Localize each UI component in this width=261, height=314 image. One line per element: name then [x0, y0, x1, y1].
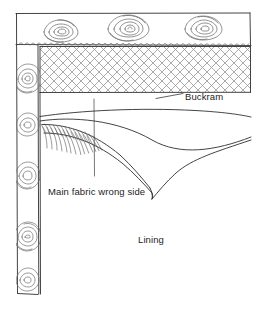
buckram-band	[40, 47, 251, 93]
label-buckram: Buckram	[185, 91, 223, 102]
curtain-heading-diagram	[0, 0, 261, 314]
lining-area	[40, 93, 41, 295]
floral-border-left	[14, 45, 41, 294]
gathered-pleats	[41, 124, 107, 163]
buckram-leader-line	[156, 94, 183, 99]
stitch-line	[16, 43, 251, 46]
illustration-canvas: Buckram Main fabric wrong side Lining	[0, 0, 261, 314]
floral-border-top	[44, 15, 222, 42]
label-lining: Lining	[138, 234, 164, 245]
label-main-fabric-wrong-side: Main fabric wrong side	[48, 186, 145, 197]
